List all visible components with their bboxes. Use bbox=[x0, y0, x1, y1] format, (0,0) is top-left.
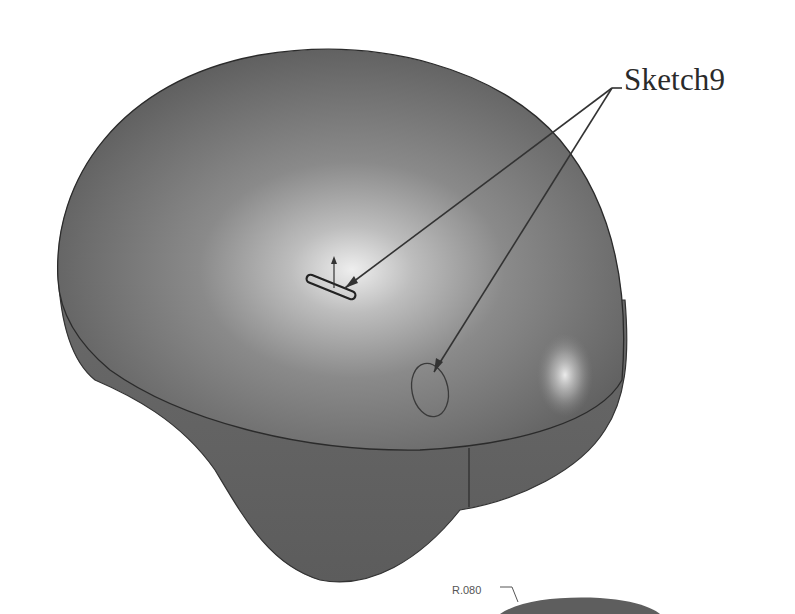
dome-surface bbox=[58, 49, 624, 450]
dimension-leader bbox=[500, 587, 518, 602]
side-highlight bbox=[537, 333, 593, 417]
detail-view-shape bbox=[500, 598, 660, 614]
radius-dimension-label: R.080 bbox=[452, 584, 481, 596]
sketch-callout-label: Sketch9 bbox=[624, 62, 725, 98]
